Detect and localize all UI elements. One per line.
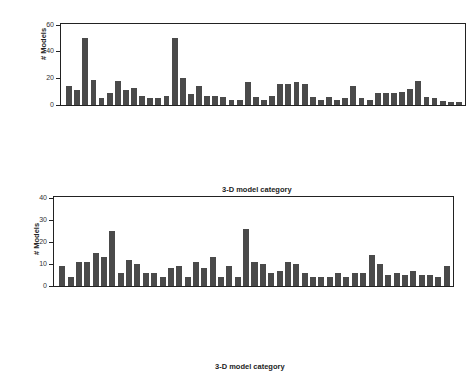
chart-bottom: # Models 010203040 3-D model category [0, 0, 468, 383]
bar [402, 275, 408, 286]
bar [251, 262, 257, 286]
x-axis-label: 3-D model category [215, 362, 285, 371]
y-tick-label: 20 [27, 238, 47, 245]
bar [168, 268, 174, 286]
y-tick-label: 0 [27, 282, 47, 289]
bar [369, 255, 375, 286]
bar [93, 253, 99, 286]
bar [327, 277, 333, 286]
bar [160, 277, 166, 286]
bar [385, 275, 391, 286]
y-tick-label: 30 [27, 216, 47, 223]
y-tick-label: 10 [27, 260, 47, 267]
bar [427, 275, 433, 286]
bar [277, 271, 283, 286]
bar [318, 277, 324, 286]
bars [54, 197, 453, 286]
bar [352, 273, 358, 286]
bar [335, 273, 341, 286]
bar [343, 277, 349, 286]
bar [360, 273, 366, 286]
bar [151, 273, 157, 286]
bar [193, 262, 199, 286]
bar [109, 231, 115, 286]
bar [210, 257, 216, 286]
bar [260, 264, 266, 286]
bar [185, 277, 191, 286]
bar [59, 266, 65, 286]
bar [235, 277, 241, 286]
bar [444, 266, 450, 286]
bar [243, 229, 249, 286]
bar [84, 262, 90, 286]
bar [377, 264, 383, 286]
plot-area [53, 196, 454, 287]
bar [101, 257, 107, 286]
bar [226, 266, 232, 286]
bar [285, 262, 291, 286]
bar [201, 268, 207, 286]
y-tick-label: 40 [27, 194, 47, 201]
bar [419, 275, 425, 286]
bar [68, 277, 74, 286]
bar [134, 264, 140, 286]
bar [310, 277, 316, 286]
bar [435, 277, 441, 286]
bar [302, 273, 308, 286]
bar [76, 262, 82, 286]
bar [176, 266, 182, 286]
bar [268, 273, 274, 286]
bar [293, 264, 299, 286]
bar [126, 260, 132, 286]
bar [118, 273, 124, 286]
bar [143, 273, 149, 286]
bar [394, 273, 400, 286]
bar [218, 277, 224, 286]
bar [410, 271, 416, 286]
